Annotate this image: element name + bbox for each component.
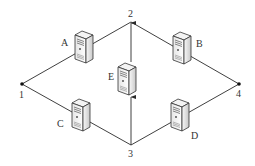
- server-b-icon: [173, 32, 191, 64]
- server-label-c: C: [57, 118, 64, 129]
- server-label-e: E: [108, 71, 114, 82]
- server-label-d: D: [191, 130, 198, 141]
- server-label-a: A: [61, 37, 69, 48]
- node-label-4: 4: [236, 88, 241, 99]
- server-label-b: B: [196, 38, 203, 49]
- node-label-2: 2: [128, 8, 133, 19]
- server-c-icon: [72, 99, 90, 131]
- server-e-icon: [118, 63, 136, 95]
- network-diagram: 1 2 3 4 A B C D E: [0, 0, 255, 166]
- node-4-dot: [237, 82, 241, 86]
- node-label-3: 3: [128, 148, 133, 159]
- node-1-dot: [20, 82, 24, 86]
- node-label-1: 1: [19, 89, 24, 100]
- server-a-icon: [75, 31, 93, 63]
- server-d-icon: [171, 99, 189, 131]
